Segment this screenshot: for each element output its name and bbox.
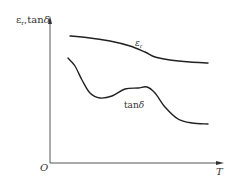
tan-delta-curve-label: tanδ [124, 100, 144, 110]
origin-label: O [40, 162, 48, 173]
tan-delta-curve [68, 58, 208, 124]
y-axis-label: εr,tanδ [16, 14, 50, 26]
x-axis-label: T [216, 166, 224, 177]
x-axis-arrow-icon [216, 161, 224, 165]
chart: εr,tanδ O T εr tanδ [0, 0, 238, 185]
er-curve-label: εr [135, 38, 143, 49]
